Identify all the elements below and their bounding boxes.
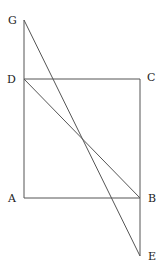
label-E: E — [148, 250, 156, 263]
geometry-diagram: G D C A B E — [0, 0, 165, 270]
label-C: C — [147, 71, 155, 84]
label-G: G — [8, 14, 17, 27]
label-A: A — [7, 192, 17, 205]
label-D: D — [7, 73, 16, 86]
label-B: B — [148, 192, 156, 205]
segment-DB — [24, 79, 140, 198]
